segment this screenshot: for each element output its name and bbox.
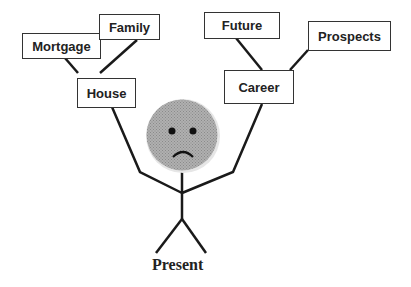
line-future-career: [236, 38, 262, 70]
line-prospects-career: [290, 50, 308, 70]
diagram-canvas: Mortgage Family House Future Prospects C…: [0, 0, 411, 287]
box-prospects: Prospects: [308, 21, 391, 51]
sad-face-icon: [146, 99, 220, 173]
line-mortgage-house: [65, 58, 78, 73]
line-family-house: [100, 40, 137, 73]
box-future: Future: [204, 12, 280, 39]
box-career: Career: [224, 70, 294, 104]
left-leg: [156, 219, 182, 253]
box-house: House: [77, 78, 136, 108]
right-leg: [182, 219, 206, 253]
box-mortgage: Mortgage: [22, 33, 101, 59]
figure-label: Present: [152, 256, 203, 274]
box-family: Family: [99, 14, 160, 40]
